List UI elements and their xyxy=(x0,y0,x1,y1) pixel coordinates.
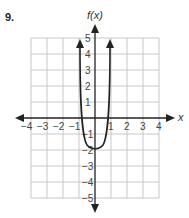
svg-text:3: 3 xyxy=(85,65,91,76)
svg-text:5: 5 xyxy=(85,33,91,44)
svg-text:1: 1 xyxy=(85,97,91,108)
curve-arrow-left xyxy=(76,39,84,48)
svg-text:−4: −4 xyxy=(82,177,94,188)
y-axis-arrow-down xyxy=(91,204,99,213)
y-axis-label: f(x) xyxy=(87,9,103,21)
svg-text:2: 2 xyxy=(85,81,91,92)
svg-text:−3: −3 xyxy=(82,161,94,172)
curve-arrow-right xyxy=(106,39,114,48)
x-axis-label: x xyxy=(177,111,184,123)
x-axis-arrow-right xyxy=(166,114,175,122)
svg-text:4: 4 xyxy=(85,49,91,60)
svg-text:1: 1 xyxy=(108,121,114,132)
svg-text:−3: −3 xyxy=(37,121,49,132)
svg-text:−2: −2 xyxy=(53,121,65,132)
svg-text:−5: −5 xyxy=(82,193,94,204)
svg-text:2: 2 xyxy=(124,121,130,132)
svg-text:−4: −4 xyxy=(21,121,33,132)
svg-text:4: 4 xyxy=(156,121,162,132)
y-axis-arrow-up xyxy=(91,24,99,33)
svg-text:3: 3 xyxy=(140,121,146,132)
svg-text:−1: −1 xyxy=(69,121,81,132)
function-graph: x f(x) −4 −3 −2 −1 1 2 3 4 5 4 3 2 1 −1 … xyxy=(0,0,189,218)
